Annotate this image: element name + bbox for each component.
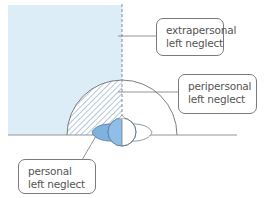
label-extrapersonal: extrapersonal left neglect (156, 18, 224, 56)
label-peripersonal: peripersonal left neglect (178, 74, 257, 114)
leader-personal (82, 136, 96, 160)
label-personal-line2: left neglect (28, 178, 95, 191)
label-peripersonal-line2: left neglect (188, 93, 256, 106)
label-peripersonal-line1: peripersonal (188, 80, 256, 93)
label-extrapersonal-line1: extrapersonal (166, 24, 223, 37)
label-personal-line1: personal (28, 165, 95, 178)
label-personal: personal left neglect (18, 159, 96, 194)
label-extrapersonal-line2: left neglect (166, 37, 223, 50)
